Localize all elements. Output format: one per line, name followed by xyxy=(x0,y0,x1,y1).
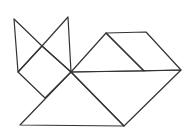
tangram-cat-figure xyxy=(0,0,196,135)
back-parallelogram xyxy=(106,32,181,71)
head-square xyxy=(18,46,71,98)
body-parallelogram xyxy=(71,70,181,126)
right-ear-triangle xyxy=(42,17,71,72)
body-large-triangle xyxy=(20,72,124,126)
back-triangle xyxy=(71,33,144,72)
left-ear-triangle xyxy=(14,19,42,72)
